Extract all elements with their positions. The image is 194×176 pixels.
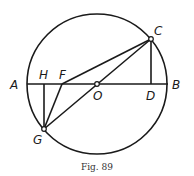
label-o: O bbox=[93, 89, 102, 103]
label-d: D bbox=[146, 89, 155, 103]
point-g bbox=[42, 127, 47, 132]
label-a: A bbox=[9, 78, 18, 92]
point-c bbox=[149, 37, 154, 42]
point-o bbox=[95, 82, 100, 87]
label-g: G bbox=[33, 133, 42, 147]
label-c: C bbox=[154, 24, 163, 38]
label-f: F bbox=[59, 68, 67, 82]
label-h: H bbox=[39, 68, 48, 82]
geometry-figure: A H F O D B C G Fig. 89 bbox=[0, 0, 194, 176]
figure-caption: Fig. 89 bbox=[81, 162, 113, 172]
label-b: B bbox=[172, 78, 180, 92]
